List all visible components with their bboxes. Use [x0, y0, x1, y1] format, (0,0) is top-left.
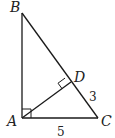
segment-ad — [22, 82, 71, 118]
triangle-diagram: B A C D 3 5 — [0, 0, 115, 138]
label-c: C — [101, 113, 112, 129]
length-ac: 5 — [57, 125, 65, 138]
label-d: D — [73, 69, 85, 85]
label-b: B — [9, 0, 20, 15]
label-a: A — [5, 113, 17, 129]
segment-bc — [22, 13, 98, 118]
length-dc: 3 — [89, 90, 97, 104]
